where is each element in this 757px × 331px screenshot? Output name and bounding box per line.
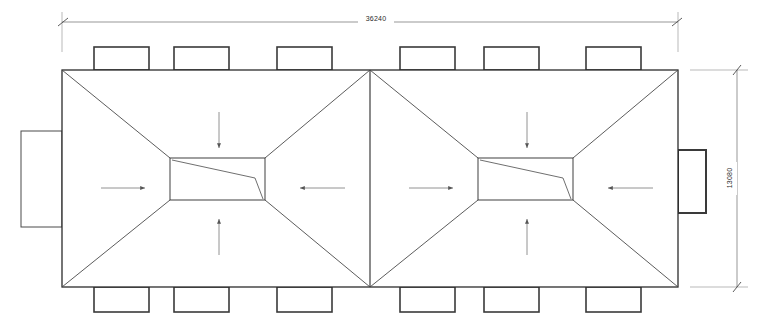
overall-height-dimension-label: 13080	[726, 168, 733, 188]
top-unit	[94, 47, 149, 70]
top-unit	[277, 47, 332, 70]
top-unit	[174, 47, 229, 70]
bottom-unit	[400, 287, 455, 312]
overall-width-dimension-label: 36240	[366, 15, 386, 22]
bottom-unit	[586, 287, 641, 312]
roof-plan-canvas: 36240 13080	[0, 0, 757, 331]
roof-plan-drawing: 36240 13080	[0, 0, 757, 331]
bottom-unit	[277, 287, 332, 312]
right-side-unit	[678, 150, 706, 213]
bottom-unit	[484, 287, 539, 312]
inner-flat-roof	[478, 158, 573, 200]
bottom-unit	[94, 287, 149, 312]
bottom-units-group	[94, 287, 641, 312]
inner-flat-roof	[170, 158, 265, 200]
top-dimension: 36240	[58, 12, 682, 52]
top-units-group	[94, 47, 641, 70]
bottom-unit	[174, 287, 229, 312]
top-unit	[586, 47, 641, 70]
top-unit	[400, 47, 455, 70]
top-unit	[484, 47, 539, 70]
left-side-unit	[21, 131, 62, 227]
